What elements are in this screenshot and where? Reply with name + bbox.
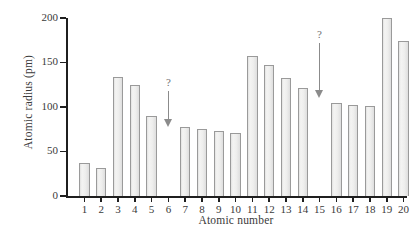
bar — [79, 163, 89, 196]
x-tick-mark — [134, 198, 136, 202]
bar — [214, 131, 224, 196]
atomic-radius-bar-chart: Atomic radius (pm) Atomic number 0501001… — [0, 0, 414, 237]
arrow-down-icon — [315, 90, 323, 98]
x-tick-mark — [168, 198, 170, 202]
bar — [348, 105, 358, 196]
x-tick-mark — [84, 198, 86, 202]
bar — [96, 168, 106, 196]
bar — [298, 88, 308, 196]
x-tick-mark — [218, 198, 220, 202]
y-tick-mark — [60, 151, 66, 153]
x-tick-mark — [100, 198, 102, 202]
x-tick-mark — [369, 198, 371, 202]
y-tick-label: 200 — [28, 11, 58, 23]
bar — [197, 129, 207, 196]
x-axis-title: Atomic number — [60, 214, 412, 226]
bar — [331, 103, 341, 196]
question-mark-annotation: ? — [313, 28, 327, 40]
bar — [180, 127, 190, 196]
x-tick-mark — [201, 198, 203, 202]
x-tick-mark — [352, 198, 354, 202]
x-tick-mark — [302, 198, 304, 202]
y-tick-mark — [60, 17, 66, 19]
y-tick-mark — [60, 195, 66, 197]
x-tick-mark — [403, 198, 405, 202]
y-tick-label: 0 — [28, 189, 58, 201]
bar — [365, 106, 375, 196]
x-tick-mark — [252, 198, 254, 202]
bar — [382, 18, 392, 196]
x-tick-mark — [184, 198, 186, 202]
bar — [398, 41, 408, 196]
question-mark-annotation: ? — [161, 76, 175, 88]
y-tick-label: 100 — [28, 100, 58, 112]
x-tick-label: 20 — [393, 203, 414, 215]
y-tick-label: 150 — [28, 55, 58, 67]
bar — [264, 65, 274, 196]
x-tick-mark — [151, 198, 153, 202]
bar — [146, 116, 156, 196]
bar — [130, 85, 140, 196]
arrow-down-icon — [164, 119, 172, 127]
y-tick-mark — [60, 62, 66, 64]
y-tick-mark — [60, 106, 66, 108]
bar — [281, 78, 291, 196]
bar — [247, 56, 257, 196]
plot-area: 050100150200 123456789101112131415161718… — [66, 18, 407, 196]
x-tick-mark — [268, 198, 270, 202]
x-tick-mark — [235, 198, 237, 202]
x-tick-mark — [336, 198, 338, 202]
arrow-shaft-icon — [168, 91, 170, 120]
x-tick-mark — [285, 198, 287, 202]
y-axis-line — [66, 18, 68, 196]
x-tick-mark — [386, 198, 388, 202]
y-tick-label-group: 050100150200 — [22, 18, 58, 196]
x-tick-mark — [319, 198, 321, 202]
x-tick-mark — [117, 198, 119, 202]
bar — [230, 133, 240, 196]
y-tick-label: 50 — [28, 144, 58, 156]
bar — [113, 77, 123, 196]
arrow-shaft-icon — [319, 43, 321, 91]
